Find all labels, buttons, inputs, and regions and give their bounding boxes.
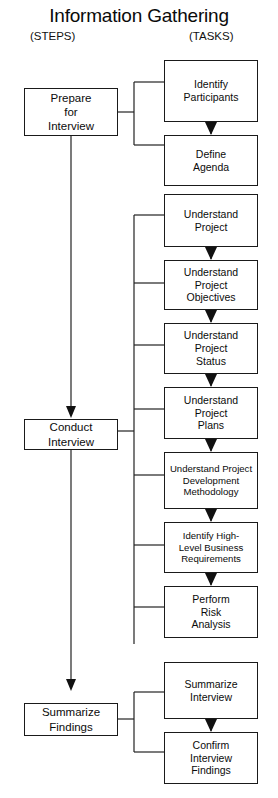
task-understand-project-plans-line-1: Understand: [184, 394, 238, 407]
task-identify-participants-line-2: Participants: [184, 91, 239, 104]
column-header-tasks: (TASKS): [189, 30, 234, 42]
task-perform-risk-analysis-line-1: Perform: [192, 593, 229, 606]
arrowhead-conduct: [66, 406, 76, 418]
arrowhead-understand-project-status: [205, 310, 217, 323]
task-understand-project-plans-line-3: Plans: [198, 419, 224, 432]
flowchart-canvas: Information Gathering (STEPS) (TASKS): [0, 0, 278, 798]
task-node-understand-project-plans[interactable]: Understand Project Plans: [164, 387, 258, 439]
task-understand-project-development-methodology-line-1: Understand Project: [170, 463, 252, 475]
step-summarize-line-1: Summarize: [42, 705, 100, 719]
task-summarize-interview-line-1: Summarize: [184, 678, 237, 691]
task-node-define-agenda[interactable]: Define Agenda: [164, 135, 258, 186]
task-understand-project-objectives-line-1: Understand: [184, 266, 238, 279]
task-understand-project-development-methodology-line-3: Methodology: [184, 486, 239, 498]
task-understand-project-status-line-1: Understand: [184, 329, 238, 342]
task-understand-project-development-methodology-line-2: Development: [183, 475, 240, 487]
task-confirm-interview-findings-line-3: Findings: [191, 764, 231, 777]
step-node-conduct-interview[interactable]: Conduct Interview: [24, 419, 118, 450]
task-understand-project-line-2: Project: [195, 221, 228, 234]
task-node-summarize-interview[interactable]: Summarize Interview: [164, 662, 258, 719]
task-define-agenda-line-1: Define: [196, 148, 226, 161]
arrowhead-define-agenda: [205, 122, 217, 135]
task-node-understand-project-objectives[interactable]: Understand Project Objectives: [164, 260, 258, 310]
task-understand-project-plans-line-2: Project: [195, 407, 228, 420]
task-confirm-interview-findings-line-1: Confirm: [193, 739, 230, 752]
task-node-identify-high-level-business-requirements[interactable]: Identify High- Level Business Requiremen…: [164, 522, 258, 573]
task-understand-project-status-line-2: Project: [195, 342, 228, 355]
step-conduct-line-2: Interview: [48, 435, 94, 449]
task-identify-high-level-business-requirements-line-3: Requirements: [181, 553, 241, 565]
task-understand-project-objectives-line-3: Objectives: [186, 291, 235, 304]
task-perform-risk-analysis-line-2: Risk: [201, 606, 221, 619]
step-prepare-line-1: Prepare: [51, 91, 92, 105]
task-identify-high-level-business-requirements-line-1: Identify High-: [183, 530, 240, 542]
step-summarize-line-2: Findings: [49, 720, 92, 734]
task-confirm-interview-findings-line-2: Interview: [190, 752, 232, 765]
arrowhead-identify-high-level-business-requirements: [205, 509, 217, 522]
task-summarize-interview-line-2: Interview: [190, 691, 232, 704]
task-identify-high-level-business-requirements-line-2: Level Business: [179, 542, 244, 554]
arrowhead-understand-project-development-methodology: [205, 439, 217, 452]
column-header-steps: (STEPS): [30, 30, 75, 42]
step-node-prepare-for-interview[interactable]: Prepare for Interview: [24, 88, 118, 136]
step-prepare-line-3: Interview: [48, 119, 94, 133]
arrowhead-summarize: [66, 679, 76, 691]
step-conduct-line-1: Conduct: [50, 420, 93, 434]
step-prepare-line-2: for: [64, 105, 77, 119]
arrowhead-perform-risk-analysis: [205, 573, 217, 586]
task-node-understand-project-status[interactable]: Understand Project Status: [164, 323, 258, 374]
arrowhead-confirm-interview-findings: [205, 719, 217, 732]
task-define-agenda-line-2: Agenda: [193, 161, 229, 174]
arrowhead-understand-project-plans: [205, 374, 217, 387]
task-node-understand-project[interactable]: Understand Project: [164, 194, 258, 247]
task-understand-project-objectives-line-2: Project: [195, 279, 228, 292]
task-node-confirm-interview-findings[interactable]: Confirm Interview Findings: [164, 732, 258, 784]
arrowhead-understand-project-objectives: [205, 247, 217, 260]
task-identify-participants-line-1: Identify: [194, 78, 228, 91]
task-node-identify-participants[interactable]: Identify Participants: [164, 60, 258, 122]
task-node-perform-risk-analysis[interactable]: Perform Risk Analysis: [164, 586, 258, 638]
page-title: Information Gathering: [0, 5, 278, 27]
step-node-summarize-findings[interactable]: Summarize Findings: [24, 703, 118, 736]
task-node-understand-project-development-methodology[interactable]: Understand Project Development Methodolo…: [164, 452, 258, 509]
task-understand-project-line-1: Understand: [184, 208, 238, 221]
task-understand-project-status-line-3: Status: [196, 355, 226, 368]
task-perform-risk-analysis-line-3: Analysis: [191, 618, 230, 631]
